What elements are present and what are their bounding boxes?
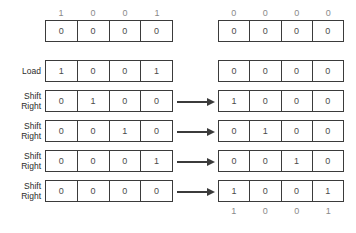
register-cell: 0 — [141, 181, 172, 201]
register-cell: 0 — [282, 21, 313, 41]
header-digit: 0 — [77, 7, 109, 19]
left-register: 1 0 0 1 — [45, 60, 173, 82]
register-cell: 1 — [78, 91, 110, 111]
shift-arrow-icon — [177, 127, 215, 136]
row-label: Shift Right — [0, 91, 41, 111]
register-cell: 0 — [313, 61, 343, 81]
register-row: 0 0 0 0 0 0 0 0 — [0, 20, 356, 42]
header-digit: 0 — [250, 7, 282, 19]
register-cell: 0 — [141, 91, 172, 111]
row-label-line2: Right — [0, 131, 41, 141]
register-cell: 0 — [313, 91, 343, 111]
shift-register-diagram: 1 0 0 1 0 0 0 0 0 0 0 0 0 0 0 0 Load — [0, 0, 356, 233]
footer-digit: 0 — [250, 205, 282, 217]
row-label-line2: Right — [0, 161, 41, 171]
header-digit: 0 — [313, 7, 345, 19]
register-cell: 0 — [110, 61, 142, 81]
row-label: Shift Right — [0, 121, 41, 141]
header-digit: 0 — [218, 7, 250, 19]
register-cell: 0 — [219, 121, 250, 141]
register-row: Shift Right 0 0 1 0 0 1 0 0 — [0, 120, 356, 142]
right-register: 0 0 0 0 — [218, 60, 344, 82]
register-cell: 0 — [141, 21, 172, 41]
row-label-line1: Shift — [24, 181, 41, 191]
register-cell: 1 — [141, 151, 172, 171]
row-label-line2: Right — [0, 101, 41, 111]
register-cell: 0 — [141, 121, 172, 141]
register-cell: 0 — [78, 151, 110, 171]
right-register: 0 0 0 0 — [218, 20, 344, 42]
right-footer-digits: 1 0 0 1 — [218, 205, 344, 217]
register-cell: 0 — [46, 21, 78, 41]
right-register: 1 0 0 1 — [218, 180, 344, 202]
register-cell: 1 — [219, 181, 250, 201]
row-label-line1: Shift — [24, 121, 41, 131]
shift-arrow-icon — [177, 187, 215, 196]
shift-arrow-icon — [177, 97, 215, 106]
header-digit: 1 — [141, 7, 173, 19]
register-cell: 0 — [250, 151, 281, 171]
register-cell: 0 — [250, 61, 281, 81]
register-cell: 0 — [219, 61, 250, 81]
header-digit: 1 — [45, 7, 77, 19]
left-header-digits: 1 0 0 1 — [45, 7, 173, 19]
register-cell: 1 — [110, 121, 142, 141]
right-register: 0 1 0 0 — [218, 120, 344, 142]
register-cell: 1 — [46, 61, 78, 81]
register-cell: 0 — [78, 121, 110, 141]
register-cell: 1 — [219, 91, 250, 111]
row-label: Shift Right — [0, 181, 41, 201]
row-label-line1: Load — [22, 66, 41, 76]
register-cell: 0 — [46, 151, 78, 171]
register-cell: 0 — [250, 21, 281, 41]
row-label: Load — [0, 66, 41, 76]
shift-arrow-icon — [177, 157, 215, 166]
row-label-line1: Shift — [24, 151, 41, 161]
register-cell: 0 — [219, 21, 250, 41]
register-row: Load 1 0 0 1 0 0 0 0 — [0, 60, 356, 82]
register-cell: 1 — [141, 61, 172, 81]
register-cell: 0 — [46, 121, 78, 141]
footer-digit: 0 — [281, 205, 313, 217]
left-register: 0 0 0 0 — [45, 180, 173, 202]
row-label-line2: Right — [0, 191, 41, 201]
header-digit: 0 — [281, 7, 313, 19]
register-cell: 0 — [282, 121, 313, 141]
row-label-line1: Shift — [24, 91, 41, 101]
register-row: Shift Right 0 1 0 0 1 0 0 0 — [0, 90, 356, 112]
row-label: Shift Right — [0, 151, 41, 171]
register-cell: 1 — [250, 121, 281, 141]
register-row: Shift Right 0 0 0 1 0 0 1 0 — [0, 150, 356, 172]
left-register: 0 0 0 1 — [45, 150, 173, 172]
right-register: 1 0 0 0 — [218, 90, 344, 112]
register-cell: 0 — [250, 181, 281, 201]
header-digit: 0 — [109, 7, 141, 19]
register-cell: 0 — [250, 91, 281, 111]
register-cell: 0 — [282, 181, 313, 201]
register-cell: 0 — [46, 91, 78, 111]
right-header-digits: 0 0 0 0 — [218, 7, 344, 19]
register-cell: 0 — [282, 61, 313, 81]
register-cell: 0 — [110, 151, 142, 171]
register-cell: 0 — [46, 181, 78, 201]
register-cell: 1 — [282, 151, 313, 171]
left-register: 0 1 0 0 — [45, 90, 173, 112]
register-cell: 0 — [78, 21, 110, 41]
register-cell: 0 — [313, 151, 343, 171]
register-cell: 0 — [110, 181, 142, 201]
register-cell: 0 — [219, 151, 250, 171]
register-cell: 0 — [313, 21, 343, 41]
left-register: 0 0 0 0 — [45, 20, 173, 42]
left-register: 0 0 1 0 — [45, 120, 173, 142]
footer-digit: 1 — [313, 205, 345, 217]
register-cell: 0 — [78, 181, 110, 201]
register-cell: 0 — [313, 121, 343, 141]
register-cell: 0 — [110, 21, 142, 41]
register-row: Shift Right 0 0 0 0 1 0 0 1 — [0, 180, 356, 202]
right-register: 0 0 1 0 — [218, 150, 344, 172]
register-cell: 0 — [78, 61, 110, 81]
register-cell: 0 — [110, 91, 142, 111]
footer-digit: 1 — [218, 205, 250, 217]
register-cell: 1 — [313, 181, 343, 201]
register-cell: 0 — [282, 91, 313, 111]
